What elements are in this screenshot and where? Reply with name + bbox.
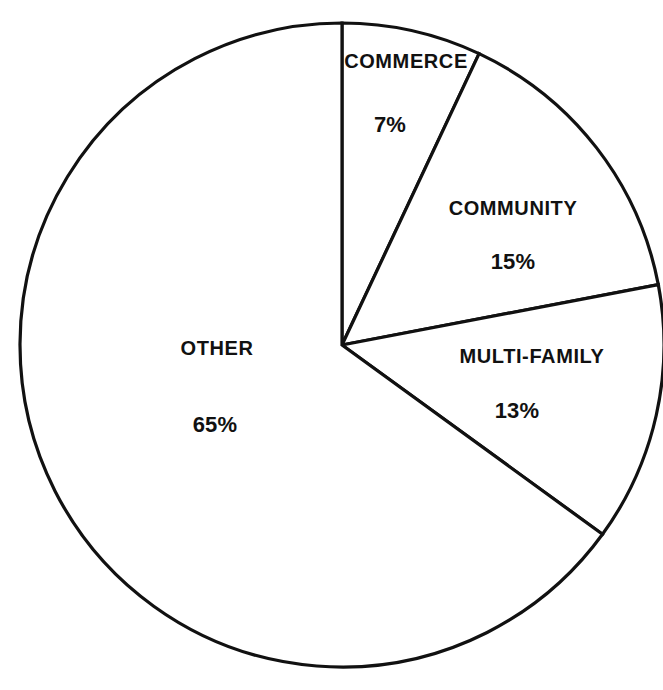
pie-chart-canvas <box>0 0 663 690</box>
pie-chart-figure: COMMERCE 7% COMMUNITY 15% MULTI-FAMILY 1… <box>0 0 663 690</box>
pie-slice-group <box>20 23 663 667</box>
